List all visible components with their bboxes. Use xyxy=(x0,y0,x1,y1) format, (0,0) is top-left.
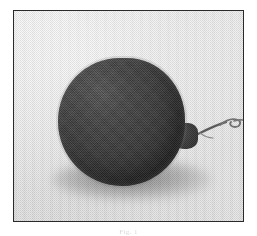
figure-root: Fig. 1 xyxy=(0,0,257,236)
figure-caption: Fig. 1 xyxy=(0,228,257,236)
round-dark-object xyxy=(58,58,185,186)
photograph-canvas xyxy=(14,11,243,221)
photograph-frame xyxy=(13,10,244,222)
object-edge-blur xyxy=(56,56,187,188)
